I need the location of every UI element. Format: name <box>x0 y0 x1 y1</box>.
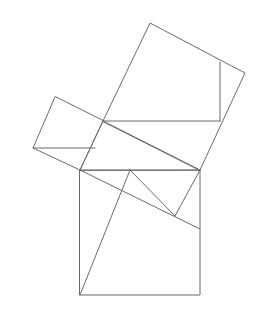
connector-to-corner <box>175 170 200 216</box>
right-triangle <box>80 121 200 170</box>
square-on-short-leg <box>33 97 103 170</box>
right-triangle-group <box>80 121 200 170</box>
square-on-hypotenuse-group <box>80 170 200 295</box>
square-on-hypotenuse <box>80 170 200 295</box>
short-connector <box>130 170 175 216</box>
diagonal-to-right-edge <box>80 170 200 229</box>
square-on-long-leg <box>103 23 245 170</box>
square-on-long-leg-group <box>103 23 245 170</box>
diagonal-bottom-left <box>80 170 130 295</box>
square-on-short-leg-group <box>33 97 103 170</box>
pythagorean-figure <box>0 0 261 314</box>
geometry-canvas <box>0 0 261 314</box>
internal-lines-group <box>33 62 220 295</box>
